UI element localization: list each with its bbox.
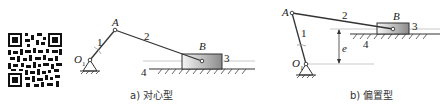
label-o: O <box>292 57 300 69</box>
caption-a: a) 对心型 <box>130 89 173 101</box>
label-crank: 1 <box>301 27 307 39</box>
label-rod: 2 <box>144 30 150 42</box>
label-o: O <box>74 53 82 65</box>
diagram-b-offset: A O 1 1 2 B 3 4 e b) 偏置型 <box>281 6 440 101</box>
joint-o1 <box>88 58 92 62</box>
joint-b <box>391 27 395 31</box>
label-slider: 3 <box>412 20 418 32</box>
label-o-sub: 1 <box>300 64 304 72</box>
label-slider: 3 <box>224 52 230 64</box>
crank <box>90 30 115 60</box>
label-a: A <box>281 6 289 18</box>
label-o-sub: 1 <box>82 60 86 68</box>
joint-o1 <box>304 62 308 66</box>
joint-a <box>113 28 117 32</box>
crank-slider-figure: A O 1 1 2 B 3 4 a) 对心型 <box>0 0 443 110</box>
label-b: B <box>199 40 206 52</box>
qr-code <box>8 33 62 87</box>
joint-b <box>200 59 204 63</box>
label-rod: 2 <box>342 9 348 21</box>
caption-b: b) 偏置型 <box>350 89 393 101</box>
label-crank: 1 <box>97 36 103 48</box>
diagram-a-centric: A O 1 1 2 B 3 4 a) 对心型 <box>74 16 255 101</box>
label-frame: 4 <box>141 66 147 78</box>
arrow-up-icon <box>337 29 341 34</box>
label-a: A <box>111 16 119 28</box>
joint-a <box>290 11 294 15</box>
label-b: B <box>393 10 400 22</box>
arrow-down-icon <box>337 59 341 64</box>
label-offset-e: e <box>342 42 347 54</box>
connecting-rod <box>115 30 202 61</box>
label-frame: 4 <box>363 38 369 50</box>
ground-hatching <box>158 69 246 74</box>
